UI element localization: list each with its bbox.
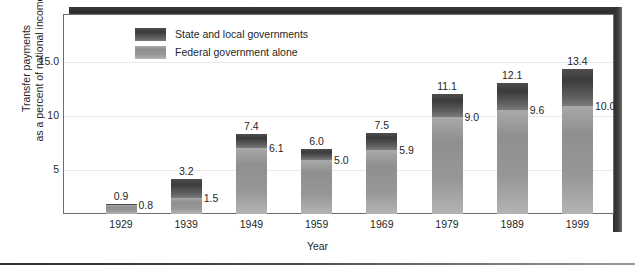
bar-group-1939[interactable]: 3.21.5: [171, 179, 202, 214]
bar-total-label-1939: 3.2: [179, 165, 194, 177]
y-axis-tick-labels: 15.0 10 5: [20, 14, 59, 214]
bar-federal-label-1999: 10.0: [595, 100, 615, 112]
bar-group-1959[interactable]: 6.05.0: [301, 149, 332, 214]
bar-segment-state-local-1969[interactable]: [366, 133, 397, 150]
bar-segment-state-local-1989[interactable]: [497, 83, 528, 110]
bar-total-label-1969: 7.5: [374, 119, 389, 131]
bar-segment-state-local-1949[interactable]: [236, 134, 267, 148]
x-tick-label-1929: 1929: [91, 218, 151, 230]
bar-segment-federal-1999[interactable]: [562, 106, 593, 214]
chart-legend: State and local governments Federal gove…: [135, 26, 308, 62]
bar-segment-federal-1979[interactable]: [432, 117, 463, 214]
bar-segment-federal-1939[interactable]: [171, 198, 202, 214]
bar-group-1999[interactable]: 13.410.0: [562, 69, 593, 214]
bar-federal-label-1959: 5.0: [334, 154, 349, 166]
bar-segment-state-local-1979[interactable]: [432, 94, 463, 117]
legend-label-state-local: State and local governments: [175, 28, 308, 40]
legend-swatch-federal-icon: [135, 46, 166, 59]
x-tick-label-1979: 1979: [417, 218, 477, 230]
x-tick-label-1959: 1959: [287, 218, 347, 230]
bar-federal-label-1949: 6.1: [269, 142, 284, 154]
bar-total-label-1949: 7.4: [244, 120, 259, 132]
bar-segment-state-local-1999[interactable]: [562, 69, 593, 106]
y-tick-label-15: 15.0: [39, 55, 59, 67]
legend-swatch-state-local-icon: [135, 28, 166, 41]
x-axis-title: Year: [0, 240, 635, 252]
x-tick-label-1939: 1939: [156, 218, 216, 230]
bar-segment-federal-1989[interactable]: [497, 110, 528, 214]
legend-label-federal: Federal government alone: [175, 46, 298, 58]
bar-total-label-1979: 11.1: [437, 80, 457, 92]
bar-total-label-1999: 13.4: [567, 55, 587, 67]
bar-federal-label-1969: 5.9: [399, 144, 414, 156]
bar-federal-label-1929: 0.8: [139, 199, 154, 211]
bar-segment-federal-1969[interactable]: [366, 150, 397, 214]
y-tick-label-5: 5: [53, 163, 59, 175]
bar-group-1989[interactable]: 12.19.6: [497, 83, 528, 214]
x-tick-label-1999: 1999: [547, 218, 607, 230]
bar-federal-label-1979: 9.0: [465, 111, 480, 123]
bar-federal-label-1989: 9.6: [530, 104, 545, 116]
bar-total-label-1959: 6.0: [309, 135, 324, 147]
bar-group-1979[interactable]: 11.19.0: [432, 94, 463, 214]
legend-item-federal: Federal government alone: [135, 44, 308, 60]
bar-segment-federal-1949[interactable]: [236, 148, 267, 214]
bar-segment-state-local-1939[interactable]: [171, 179, 202, 197]
y-tick-label-10: 10: [47, 109, 59, 121]
legend-item-state-local: State and local governments: [135, 26, 308, 42]
x-tick-label-1949: 1949: [221, 218, 281, 230]
bar-total-label-1989: 12.1: [502, 69, 522, 81]
bar-group-1949[interactable]: 7.46.1: [236, 134, 267, 214]
chart-figure: Transfer payments as a percent of nation…: [0, 0, 635, 271]
bar-segment-federal-1929[interactable]: [106, 205, 137, 214]
x-tick-label-1969: 1969: [352, 218, 412, 230]
frame-shadow-right: [613, 7, 622, 232]
bar-federal-label-1939: 1.5: [204, 192, 219, 204]
bottom-rule: [0, 263, 635, 265]
bar-total-label-1929: 0.9: [114, 190, 129, 202]
bar-segment-federal-1959[interactable]: [301, 160, 332, 214]
bar-segment-state-local-1959[interactable]: [301, 149, 332, 160]
x-tick-label-1989: 1989: [482, 218, 542, 230]
bar-group-1929[interactable]: 0.90.8: [106, 204, 137, 214]
bar-group-1969[interactable]: 7.55.9: [366, 133, 397, 214]
